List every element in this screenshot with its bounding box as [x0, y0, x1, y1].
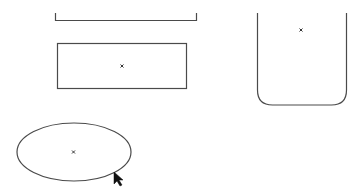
- center-marker-icon: [72, 151, 75, 154]
- bracket-shape[interactable]: [56, 13, 197, 21]
- center-marker-icon: [121, 65, 124, 68]
- rounded-container-shape[interactable]: [258, 13, 347, 105]
- diagram-canvas[interactable]: [0, 0, 364, 195]
- rectangle-shape[interactable]: [58, 44, 187, 89]
- arrow-cursor-icon: [114, 172, 123, 186]
- center-marker-icon: [300, 29, 303, 32]
